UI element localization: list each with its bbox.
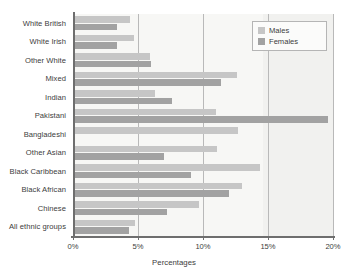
tick-mark bbox=[73, 236, 74, 240]
bar-males bbox=[73, 16, 130, 23]
bar-males bbox=[73, 35, 134, 42]
legend-item-males[interactable]: Males bbox=[258, 25, 321, 36]
bar-group bbox=[73, 199, 333, 218]
bar-males bbox=[73, 201, 199, 208]
bar-group bbox=[73, 125, 333, 144]
legend-swatch-icon bbox=[258, 38, 265, 45]
bar-males bbox=[73, 146, 217, 153]
bar-group bbox=[73, 51, 333, 70]
bar-males bbox=[73, 220, 135, 227]
bar-chart: White BritishWhite IrishOther WhiteMixed… bbox=[0, 0, 348, 279]
gridline bbox=[333, 14, 334, 236]
category-label: All ethnic groups bbox=[0, 218, 70, 237]
bar-females bbox=[73, 116, 328, 123]
tick-mark bbox=[138, 236, 139, 240]
bar-females bbox=[73, 42, 117, 49]
bar-males bbox=[73, 90, 155, 97]
y-axis-line bbox=[73, 12, 75, 238]
bar-females bbox=[73, 209, 167, 216]
tick-label: 10% bbox=[195, 242, 210, 251]
tick-mark bbox=[333, 236, 334, 240]
bar-group bbox=[73, 181, 333, 200]
bar-females bbox=[73, 98, 172, 105]
bar-group bbox=[73, 144, 333, 163]
tick-label: 15% bbox=[260, 242, 275, 251]
tick-label: 20% bbox=[325, 242, 340, 251]
category-label: Indian bbox=[0, 88, 70, 107]
legend-swatch-icon bbox=[258, 27, 265, 34]
legend-label: Females bbox=[269, 37, 298, 46]
bar-males bbox=[73, 127, 238, 134]
bar-females bbox=[73, 61, 151, 68]
category-label: White Irish bbox=[0, 33, 70, 52]
category-label: Black Caribbean bbox=[0, 162, 70, 181]
tick-label: 5% bbox=[133, 242, 144, 251]
category-label: White British bbox=[0, 14, 70, 33]
bar-males bbox=[73, 183, 242, 190]
category-axis-labels: White BritishWhite IrishOther WhiteMixed… bbox=[0, 14, 70, 236]
bar-group bbox=[73, 88, 333, 107]
chart-legend: MalesFemales bbox=[252, 21, 327, 51]
bar-group bbox=[73, 162, 333, 181]
tick-label: 0% bbox=[68, 242, 79, 251]
legend-label: Males bbox=[269, 26, 289, 35]
bar-females bbox=[73, 172, 191, 179]
bar-males bbox=[73, 53, 150, 60]
tick-mark bbox=[268, 236, 269, 240]
bar-males bbox=[73, 72, 237, 79]
category-label: Pakistani bbox=[0, 107, 70, 126]
category-label: Other Asian bbox=[0, 144, 70, 163]
bar-males bbox=[73, 164, 260, 171]
category-label: Mixed bbox=[0, 70, 70, 89]
category-label: Chinese bbox=[0, 199, 70, 218]
bar-females bbox=[73, 190, 229, 197]
bar-females bbox=[73, 153, 164, 160]
bar-males bbox=[73, 109, 216, 116]
tick-mark bbox=[203, 236, 204, 240]
bar-group bbox=[73, 107, 333, 126]
bar-females bbox=[73, 79, 221, 86]
category-label: Black African bbox=[0, 181, 70, 200]
category-label: Other White bbox=[0, 51, 70, 70]
bar-group bbox=[73, 218, 333, 237]
x-axis-title: Percentages bbox=[0, 258, 348, 267]
legend-item-females[interactable]: Females bbox=[258, 36, 321, 47]
bar-females bbox=[73, 227, 129, 234]
bar-females bbox=[73, 24, 117, 31]
bar-group bbox=[73, 70, 333, 89]
category-label: Bangladeshi bbox=[0, 125, 70, 144]
